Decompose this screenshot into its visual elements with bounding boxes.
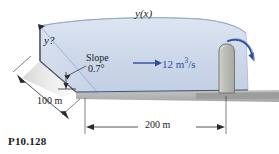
dim-200-arrow-right [217,124,225,130]
dim-200-arrow-left [86,124,94,130]
channel-length-label: 200 m [145,120,170,130]
flow-rate-label: 12 m3/s [162,57,196,70]
upstream-length-label: 100 m [37,96,62,106]
slope-title-label: Slope [86,53,109,63]
figure-p10-128: y(x) y? Slope 0.7° 12 m3/s 100 m 200 m P… [0,0,279,154]
slope-value-label: 0.7° [88,64,105,74]
dim-100-extension-top [13,56,31,72]
figure-number: P10.128 [8,136,46,147]
ground-strip-far [196,92,279,99]
channel-flow-illustration [0,0,279,154]
flow-rate-value: 12 m [162,58,184,70]
depth-unknown-label: y? [44,35,54,46]
dim-100-arrow-end [60,111,69,120]
downstream-gate [219,44,235,93]
flow-rate-unit: /s [188,58,195,70]
water-surface-label: y(x) [135,8,152,19]
